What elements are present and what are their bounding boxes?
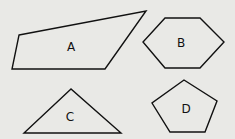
diagram-svg: A B C D <box>0 0 235 139</box>
shape-b: B <box>143 18 224 68</box>
label-b: B <box>177 36 185 50</box>
shape-c: C <box>24 89 121 133</box>
label-c: C <box>66 110 74 124</box>
shape-a: A <box>12 11 146 69</box>
quadrilateral-a <box>12 11 146 69</box>
shape-d: D <box>152 80 217 132</box>
label-d: D <box>181 102 190 116</box>
label-a: A <box>67 40 76 54</box>
shapes-diagram: A B C D <box>0 0 235 139</box>
